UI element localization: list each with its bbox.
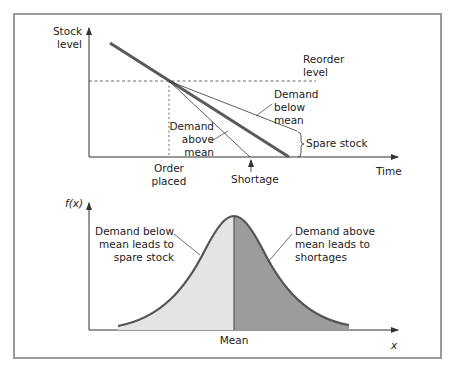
below-mean-note: Demand below mean leads to spare stock [90, 225, 174, 264]
spare-stock-brace [298, 132, 304, 157]
stock-level-label-line1: Stock [48, 25, 82, 38]
below-mean-line3: mean [274, 114, 319, 127]
reorder-label-line1: Reorder [303, 53, 344, 66]
order-placed-line1: Order [145, 162, 193, 175]
below-mean-line2: below [274, 101, 319, 114]
stock-level-label: Stock level [48, 25, 82, 51]
x-axis-label: x [391, 339, 397, 352]
above-mean-line2: above [166, 133, 214, 146]
right-note-line3: shortages [295, 251, 375, 264]
left-note-line1: Demand below [90, 225, 174, 238]
diagram-graphics [0, 0, 453, 368]
above-mean-note: Demand above mean leads to shortages [295, 225, 375, 264]
order-placed-line2: placed [145, 175, 193, 188]
above-mean-line1: Demand [166, 120, 214, 133]
spare-stock-label: Spare stock [306, 137, 368, 150]
right-note-line1: Demand above [295, 225, 375, 238]
mean-label: Mean [214, 334, 254, 347]
left-note-line2: mean leads to [90, 238, 174, 251]
stock-level-label-line2: level [48, 38, 82, 51]
right-note-line2: mean leads to [295, 238, 375, 251]
fx-axis-label: f(x) [65, 197, 83, 210]
demand-below-mean-label: Demand below mean [274, 88, 319, 127]
above-mean-line3: mean [166, 146, 214, 159]
shortage-label: Shortage [231, 173, 279, 186]
reorder-label-line2: level [303, 66, 344, 79]
left-note-line3: spare stock [90, 251, 174, 264]
demand-above-mean-label: Demand above mean [166, 120, 214, 159]
reorder-level-label: Reorder level [303, 53, 344, 79]
time-axis-label: Time [376, 165, 402, 178]
order-placed-label: Order placed [145, 162, 193, 188]
below-mean-line1: Demand [274, 88, 319, 101]
